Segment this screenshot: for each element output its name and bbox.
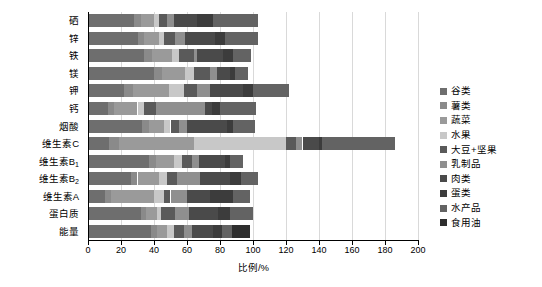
- bar-segment: [88, 207, 141, 220]
- bar-segment: [232, 225, 250, 238]
- bar-segment: [184, 225, 192, 238]
- x-tick-label: 100: [245, 245, 260, 256]
- bar-segment: [243, 84, 253, 97]
- bar-segment: [212, 102, 220, 115]
- bar-row: [88, 14, 418, 27]
- bar-segment: [172, 49, 179, 62]
- legend-item[interactable]: 薯类: [440, 99, 540, 114]
- y-axis-label: 维生素B1: [0, 155, 84, 168]
- bar-segment: [286, 137, 296, 150]
- y-axis-label: 钙: [0, 102, 84, 115]
- legend-swatch-icon: [440, 117, 447, 124]
- bar-segment: [161, 207, 176, 220]
- legend-swatch-icon: [440, 161, 447, 168]
- y-axis-label: 铁: [0, 49, 84, 62]
- legend-item[interactable]: 蛋类: [440, 186, 540, 201]
- bar-segment: [154, 67, 162, 80]
- bar-segment: [159, 14, 167, 27]
- bar-segment: [171, 190, 188, 203]
- bar-segment: [111, 190, 154, 203]
- legend-swatch-icon: [440, 132, 447, 139]
- bar-segment: [109, 137, 119, 150]
- bar-segment: [210, 84, 243, 97]
- bar-segment: [88, 137, 109, 150]
- legend-item[interactable]: 水产品: [440, 201, 540, 216]
- bar-segment: [194, 67, 211, 80]
- legend-label: 食用油: [451, 218, 481, 228]
- legend-item[interactable]: 乳制品: [440, 157, 540, 172]
- bar-row: [88, 207, 418, 220]
- bar-segment: [230, 172, 242, 185]
- bar-segment: [175, 32, 185, 45]
- legend-label: 蛋类: [451, 188, 471, 198]
- legend-item[interactable]: 大豆+坚果: [440, 142, 540, 157]
- bar-segment: [187, 190, 210, 203]
- bar-segment: [230, 155, 243, 168]
- bar-segment: [223, 49, 233, 62]
- y-axis-label: 烟酸: [0, 120, 84, 133]
- legend-item[interactable]: 谷类: [440, 84, 540, 99]
- bar-segment: [144, 102, 156, 115]
- bar-segment: [88, 67, 154, 80]
- bar-segment: [167, 14, 174, 27]
- bar-segment: [233, 49, 251, 62]
- legend-swatch-icon: [440, 219, 447, 226]
- bar-row: [88, 32, 418, 45]
- bar-segment: [296, 137, 303, 150]
- bar-segment: [124, 84, 132, 97]
- legend: 谷类薯类蔬菜水果大豆+坚果乳制品肉类蛋类水产品食用油: [440, 84, 540, 230]
- y-axis-label: 钾: [0, 84, 84, 97]
- bar-segment: [88, 32, 138, 45]
- bar-segment: [142, 120, 149, 133]
- bar-segment: [149, 120, 164, 133]
- legend-item[interactable]: 水果: [440, 128, 540, 143]
- bar-segment: [157, 225, 167, 238]
- bar-row: [88, 67, 418, 80]
- legend-label: 肉类: [451, 174, 471, 184]
- y-axis-label: 维生素A: [0, 190, 84, 203]
- bar-segment: [220, 102, 256, 115]
- bar-segment: [217, 67, 230, 80]
- legend-item[interactable]: 食用油: [440, 215, 540, 230]
- bar-segment: [152, 49, 172, 62]
- bar-row: [88, 155, 418, 168]
- bar-segment: [179, 120, 187, 133]
- bar-segment: [108, 102, 115, 115]
- bar-segment: [156, 155, 174, 168]
- bar-segment: [233, 190, 250, 203]
- bar-segment: [210, 67, 217, 80]
- y-axis-label: 蛋白质: [0, 207, 84, 220]
- bar-segment: [230, 207, 253, 220]
- legend-swatch-icon: [440, 146, 447, 153]
- bar-row: [88, 190, 418, 203]
- bar-segment: [144, 49, 152, 62]
- y-axis-label: 硒: [0, 14, 84, 27]
- bar-segment: [174, 155, 182, 168]
- legend-label: 蔬菜: [451, 115, 471, 125]
- x-tick-label: 20: [116, 245, 126, 256]
- chart-root: 020406080100120140160180200 硒锌铁镁钾钙烟酸维生素C…: [0, 0, 542, 287]
- bar-segment: [184, 84, 197, 97]
- x-tick-label: 40: [149, 245, 159, 256]
- bar-segment: [218, 207, 230, 220]
- bar-segment: [189, 207, 219, 220]
- bar-segment: [141, 14, 154, 27]
- bar-segment: [138, 172, 159, 185]
- bar-segment: [200, 172, 230, 185]
- bar-segment: [227, 120, 234, 133]
- bar-segment: [133, 84, 169, 97]
- bar-segment: [138, 32, 145, 45]
- bar-segment: [175, 207, 188, 220]
- legend-item[interactable]: 蔬菜: [440, 113, 540, 128]
- bar-segment: [192, 155, 199, 168]
- bar-segment: [222, 225, 232, 238]
- bar-segment: [88, 84, 124, 97]
- legend-item[interactable]: 肉类: [440, 172, 540, 187]
- bar-segment: [138, 102, 145, 115]
- bar-segment: [199, 155, 225, 168]
- bar-segment: [215, 32, 225, 45]
- y-axis-label: 镁: [0, 67, 84, 80]
- bar-segment: [164, 190, 171, 203]
- bar-segment: [192, 225, 213, 238]
- legend-label: 乳制品: [451, 159, 481, 169]
